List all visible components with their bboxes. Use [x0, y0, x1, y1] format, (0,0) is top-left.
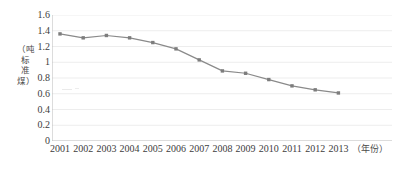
data-point-marker	[244, 72, 247, 75]
x-tick-label: 2003	[96, 143, 116, 155]
line-chart: （吨标准煤） 00.20.40.60.811.21.41.6 （年份） 2001…	[0, 0, 395, 174]
x-tick-label: 2006	[166, 143, 186, 155]
x-tick-label: 2011	[282, 143, 302, 155]
x-tick-label: 2004	[120, 143, 140, 155]
data-point-marker	[82, 36, 85, 39]
x-axis-tick-labels: （年份） 20012002200320042005200620072008200…	[52, 143, 395, 163]
y-tick-label: 1	[4, 57, 50, 67]
y-tick-label: 0	[4, 136, 50, 146]
y-tick-label: 1.2	[4, 42, 50, 52]
y-tick-label: 0.6	[4, 89, 50, 99]
data-point-marker	[267, 78, 270, 81]
x-tick-label: 2001	[50, 143, 70, 155]
y-tick-label: 0.4	[4, 105, 50, 115]
y-tick-label: 0.2	[4, 120, 50, 130]
y-tick-label: 1.4	[4, 26, 50, 36]
plot-area	[52, 15, 392, 141]
data-point-marker	[151, 41, 154, 44]
x-tick-label: 2002	[73, 143, 93, 155]
data-point-marker	[174, 47, 177, 50]
series-svg	[52, 15, 392, 141]
y-tick-label: 1.6	[4, 10, 50, 20]
y-axis-tick-labels: 00.20.40.60.811.21.41.6	[0, 0, 50, 174]
x-tick-label: 2009	[236, 143, 256, 155]
x-tick-label: 2010	[259, 143, 279, 155]
x-tick-label: 2008	[212, 143, 232, 155]
data-point-marker	[290, 84, 293, 87]
data-point-marker	[198, 58, 201, 61]
y-tick-label: 0.8	[4, 73, 50, 83]
scan-speck	[62, 89, 72, 90]
x-tick-label: 2013	[328, 143, 348, 155]
data-point-marker	[337, 91, 340, 94]
data-point-marker	[58, 32, 61, 35]
x-axis-title: （年份）	[352, 143, 388, 155]
series-line	[60, 34, 338, 93]
data-point-marker	[105, 34, 108, 37]
data-point-marker	[314, 88, 317, 91]
x-tick-label: 2007	[189, 143, 209, 155]
x-tick-label: 2012	[305, 143, 325, 155]
data-point-marker	[128, 36, 131, 39]
scan-speck	[75, 88, 79, 89]
data-point-marker	[221, 69, 224, 72]
x-tick-label: 2005	[143, 143, 163, 155]
